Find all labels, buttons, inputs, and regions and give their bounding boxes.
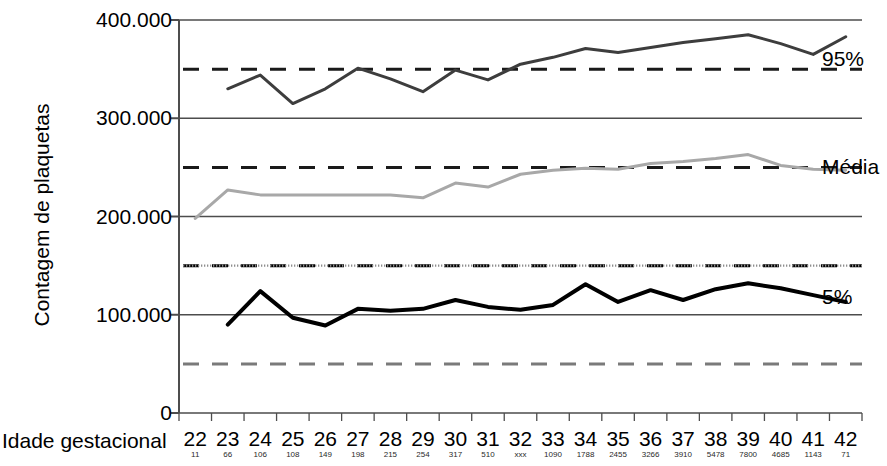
x-tick-label: 24 <box>249 427 272 451</box>
x-sample-count-label: 510 <box>481 450 494 460</box>
platelet-count-line-chart: Contagem de plaquetas 0100.000200.000300… <box>0 0 887 466</box>
x-axis-title: Idade gestacional <box>2 429 167 453</box>
x-sample-count-label: 3910 <box>674 450 692 460</box>
x-sample-count-label: 106 <box>254 450 267 460</box>
x-sample-count-label: xxx <box>515 450 527 460</box>
x-tick-label: 40 <box>769 427 792 451</box>
y-tick-label: 0 <box>160 402 172 423</box>
y-tick-label: 200.000 <box>96 206 172 227</box>
x-sample-count-label: 1090 <box>544 450 562 460</box>
x-tick-label: 33 <box>541 427 564 451</box>
y-tick-label: 100.000 <box>96 304 172 325</box>
x-sample-count-label: 254 <box>416 450 429 460</box>
series-label-5: 5% <box>822 285 852 309</box>
x-tick-label: 23 <box>216 427 239 451</box>
x-tick-label: 34 <box>574 427 597 451</box>
x-tick-label: 39 <box>736 427 759 451</box>
x-tick-label: 22 <box>184 427 207 451</box>
x-sample-count-label: 198 <box>351 450 364 460</box>
x-tick-label: 28 <box>379 427 402 451</box>
x-tick-label: 35 <box>606 427 629 451</box>
x-tick-label: 31 <box>476 427 499 451</box>
x-tick-label: 37 <box>671 427 694 451</box>
x-sample-count-label: 215 <box>384 450 397 460</box>
x-tick-label: 41 <box>802 427 825 451</box>
x-sample-count-label: 1143 <box>805 450 822 460</box>
x-sample-count-label: 149 <box>319 450 332 460</box>
plot-area <box>0 0 887 466</box>
x-tick-label: 32 <box>509 427 532 451</box>
series-label-95: 95% <box>822 47 864 71</box>
series-line-2 <box>228 283 846 325</box>
x-sample-count-label: 4685 <box>772 450 790 460</box>
y-tick-label: 300.000 <box>96 107 172 128</box>
x-sample-count-label: 317 <box>449 450 462 460</box>
series-label-media: Média <box>822 155 879 179</box>
x-tick-label: 36 <box>639 427 662 451</box>
x-tick-label: 42 <box>834 427 857 451</box>
x-tick-label: 26 <box>314 427 337 451</box>
x-tick-label: 38 <box>704 427 727 451</box>
series-line-1 <box>195 155 845 219</box>
x-tick-label: 30 <box>444 427 467 451</box>
x-sample-count-label: 1788 <box>577 450 595 460</box>
y-tick-label: 400.000 <box>96 9 172 30</box>
x-sample-count-label: 3266 <box>642 450 660 460</box>
x-sample-count-label: 11 <box>191 450 199 460</box>
x-sample-count-label: 108 <box>286 450 299 460</box>
x-tick-label: 29 <box>411 427 434 451</box>
x-sample-count-label: 5478 <box>707 450 725 460</box>
x-sample-count-label: 7800 <box>739 450 757 460</box>
x-sample-count-label: 2455 <box>609 450 627 460</box>
x-tick-label: 27 <box>346 427 369 451</box>
y-axis-title: Contagem de plaquetas <box>28 0 56 430</box>
x-tick-label: 25 <box>281 427 304 451</box>
x-sample-count-label: 66 <box>223 450 232 460</box>
x-sample-count-label: 71 <box>841 450 850 460</box>
